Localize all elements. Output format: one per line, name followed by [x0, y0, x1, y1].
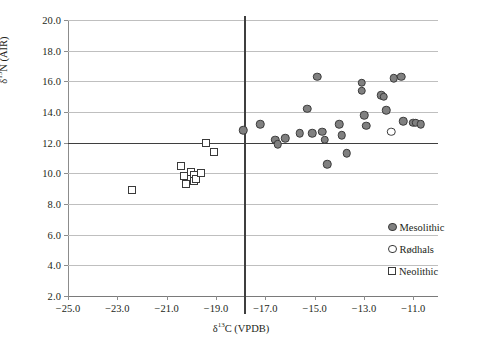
y-tick-label-10.0: 10.0 [42, 168, 61, 179]
data-point-mesolithic-1 [256, 120, 265, 129]
x-axis-title: δ13C (VPDB) [0, 321, 482, 334]
x-tick-label--11.0: −11.0 [401, 303, 425, 314]
data-point-mesolithic-17 [360, 111, 369, 120]
data-point-mesolithic-20 [379, 92, 388, 101]
x-tick-label--15.0: −15.0 [303, 303, 327, 314]
gridline-y-2.0 [68, 296, 438, 297]
data-point-neolithic-10 [210, 148, 218, 156]
x-tick-label--17.0: −17.0 [253, 303, 277, 314]
x-tick-mark--23.0 [117, 296, 118, 300]
gridline-y-12.0 [68, 143, 438, 144]
y-tick-label-4.0: 4.0 [48, 260, 61, 271]
data-point-mesolithic-11 [323, 160, 332, 169]
y-tick-label-16.0: 16.0 [42, 76, 61, 87]
y-tick-label-18.0: 18.0 [42, 45, 61, 56]
gridline-y-8.0 [68, 204, 438, 205]
legend-marker-open-square-icon [388, 267, 396, 275]
y-tick-mark-4.0 [64, 265, 68, 266]
data-point-mesolithic-7 [308, 129, 317, 138]
y-tick-mark-6.0 [64, 235, 68, 236]
x-tick-mark--17.0 [265, 296, 266, 300]
data-point-mesolithic-14 [342, 149, 351, 158]
legend-item-mesolithic: Mesolithic [388, 216, 478, 238]
y-tick-mark-14.0 [64, 112, 68, 113]
plot-area [68, 20, 438, 296]
c13-threshold-line [244, 16, 245, 314]
data-point-mesolithic-16 [357, 86, 366, 95]
data-point-mesolithic-24 [399, 117, 408, 126]
y-tick-label-20.0: 20.0 [42, 15, 61, 26]
x-tick-label--21.0: −21.0 [155, 303, 179, 314]
data-point-neolithic-0 [128, 186, 136, 194]
x-tick-label--23.0: −23.0 [105, 303, 129, 314]
gridline-y-16.0 [68, 81, 438, 82]
gridline-y-10.0 [68, 173, 438, 174]
data-point-mesolithic-0 [239, 126, 248, 135]
data-point-mesolithic-18 [362, 122, 371, 131]
legend-marker-open-circle-icon [388, 245, 397, 254]
x-tick-mark--19.0 [216, 296, 217, 300]
data-point-mesolithic-4 [281, 134, 290, 143]
legend-label: Rødhals [400, 244, 434, 255]
legend-item-r-dhals: Rødhals [388, 238, 478, 260]
data-point-neolithic-9 [202, 139, 210, 147]
y-tick-label-6.0: 6.0 [48, 229, 61, 240]
x-tick-mark--25.0 [68, 296, 69, 300]
x-tick-label--19.0: −19.0 [204, 303, 228, 314]
x-tick-mark--21.0 [167, 296, 168, 300]
gridline-y-4.0 [68, 265, 438, 266]
x-tick-label--13.0: −13.0 [352, 303, 376, 314]
y-tick-mark-20.0 [64, 20, 68, 21]
legend-marker-filled-circle-icon [388, 223, 397, 232]
y-tick-label-12.0: 12.0 [42, 137, 61, 148]
data-point-neolithic-8 [197, 169, 205, 177]
y-tick-mark-8.0 [64, 204, 68, 205]
y-tick-label-8.0: 8.0 [48, 199, 61, 210]
x-tick-mark--15.0 [315, 296, 316, 300]
data-point-mesolithic-13 [338, 131, 347, 140]
legend-label: Neolithic [399, 266, 438, 277]
legend-label: Mesolithic [400, 222, 445, 233]
data-point-mesolithic-10 [320, 135, 329, 144]
y-tick-mark-10.0 [64, 173, 68, 174]
y-tick-label-14.0: 14.0 [42, 107, 61, 118]
data-point-mesolithic-21 [382, 106, 391, 115]
data-point-r-dhals-0 [387, 128, 396, 137]
gridline-y-20.0 [68, 20, 438, 21]
x-tick-label--25.0: −25.0 [56, 303, 80, 314]
y-tick-mark-18.0 [64, 51, 68, 52]
x-tick-mark--13.0 [364, 296, 365, 300]
data-point-mesolithic-12 [335, 120, 344, 129]
y-tick-label-2.0: 2.0 [48, 291, 61, 302]
y-tick-mark-16.0 [64, 81, 68, 82]
data-point-mesolithic-6 [303, 105, 312, 114]
data-point-mesolithic-23 [397, 72, 406, 81]
y-axis-title: δ15N (AIR) [0, 0, 9, 120]
y-tick-mark-12.0 [64, 143, 68, 144]
gridline-y-6.0 [68, 235, 438, 236]
x-tick-mark--11.0 [413, 296, 414, 300]
chart-legend: MesolithicRødhalsNeolithic [388, 216, 478, 282]
data-point-mesolithic-3 [273, 140, 282, 149]
data-point-mesolithic-5 [296, 129, 305, 138]
legend-item-neolithic: Neolithic [388, 260, 478, 282]
data-point-mesolithic-8 [313, 72, 322, 81]
data-point-neolithic-1 [177, 162, 185, 170]
gridline-y-18.0 [68, 51, 438, 52]
data-point-mesolithic-27 [416, 120, 425, 129]
scatter-plot-figure: δ15N (AIR) 2.04.06.08.010.012.014.016.01… [0, 0, 482, 347]
